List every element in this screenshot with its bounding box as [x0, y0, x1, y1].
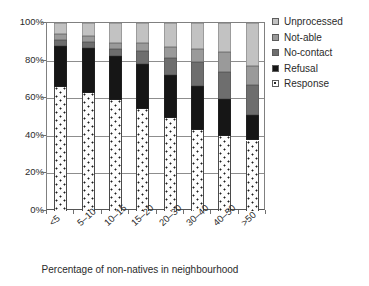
- segment-response: [218, 136, 231, 211]
- segment-response: [246, 141, 259, 212]
- segment-nocontact: [109, 49, 122, 56]
- segment-refusal: [136, 64, 149, 108]
- legend-item-response[interactable]: Response: [272, 76, 368, 92]
- bar-15_20: [136, 23, 149, 209]
- legend-swatch-response-icon: [272, 80, 279, 87]
- segment-notable: [54, 34, 67, 40]
- segment-unprocessed: [191, 23, 204, 49]
- segment-unprocessed: [82, 23, 95, 36]
- x-tick-label: <5: [47, 213, 62, 228]
- y-tick-label: 100%: [0, 16, 44, 28]
- segment-notable: [136, 43, 149, 51]
- segment-unprocessed: [54, 23, 67, 34]
- segment-refusal: [246, 115, 259, 140]
- segment-nocontact: [136, 51, 149, 64]
- x-tick-mark: [238, 210, 239, 214]
- legend-item-nocontact[interactable]: No-contact: [272, 45, 368, 61]
- chart-legend: UnprocessedNot-ableNo-contactRefusalResp…: [272, 14, 368, 92]
- legend-item-unprocessed[interactable]: Unprocessed: [272, 14, 368, 30]
- segment-refusal: [54, 46, 67, 87]
- bar-20_30: [164, 23, 177, 209]
- legend-item-refusal[interactable]: Refusal: [272, 61, 368, 77]
- legend-swatch-unprocessed-icon: [272, 18, 279, 25]
- x-tick-mark: [46, 210, 47, 214]
- segment-nocontact: [54, 40, 67, 46]
- gridline: [47, 173, 264, 174]
- segment-notable: [109, 43, 122, 50]
- segment-unprocessed: [109, 23, 122, 43]
- x-tick-mark: [101, 210, 102, 214]
- legend-swatch-refusal-icon: [272, 65, 279, 72]
- y-tick-label: 40%: [0, 129, 44, 141]
- segment-response: [54, 87, 67, 211]
- gridline: [47, 98, 264, 99]
- segment-notable: [218, 52, 231, 72]
- legend-swatch-notable-icon: [272, 34, 279, 41]
- x-tick-label: >50: [238, 209, 257, 228]
- segment-refusal: [109, 56, 122, 100]
- bar-40_50: [218, 23, 231, 209]
- segment-nocontact: [191, 62, 204, 86]
- bar-5_10: [82, 23, 95, 209]
- segment-nocontact: [246, 85, 259, 115]
- legend-label: Refusal: [284, 63, 318, 74]
- y-tick-label: 80%: [0, 54, 44, 66]
- legend-label: Unprocessed: [284, 16, 343, 27]
- segment-notable: [164, 47, 177, 57]
- y-tick-label: 0%: [0, 204, 44, 216]
- legend-item-notable[interactable]: Not-able: [272, 30, 368, 46]
- segment-nocontact: [218, 72, 231, 99]
- segment-response: [164, 118, 177, 211]
- segment-unprocessed: [164, 23, 177, 47]
- segment-notable: [246, 66, 259, 85]
- legend-swatch-nocontact-icon: [272, 49, 279, 56]
- segment-unprocessed: [136, 23, 149, 43]
- segment-response: [191, 130, 204, 211]
- x-tick-mark: [210, 210, 211, 214]
- segment-refusal: [164, 75, 177, 118]
- bar-_50: [246, 23, 259, 209]
- gridline: [47, 136, 264, 137]
- legend-label: Response: [284, 78, 329, 89]
- segment-notable: [191, 49, 204, 62]
- y-axis: 0%20%40%60%80%100%: [0, 22, 44, 210]
- segment-refusal: [82, 48, 95, 92]
- plot-area: [46, 22, 265, 210]
- segment-response: [109, 100, 122, 211]
- segment-nocontact: [82, 42, 95, 49]
- bar-30_40: [191, 23, 204, 209]
- segment-response: [82, 93, 95, 211]
- x-tick-mark: [265, 210, 266, 214]
- segment-response: [136, 109, 149, 211]
- segment-nocontact: [164, 58, 177, 75]
- y-tick-label: 20%: [0, 166, 44, 178]
- bar-_5: [54, 23, 67, 209]
- segment-unprocessed: [246, 23, 259, 66]
- bar-10_15: [109, 23, 122, 209]
- segment-unprocessed: [218, 23, 231, 52]
- segment-notable: [82, 36, 95, 42]
- segment-refusal: [191, 86, 204, 130]
- x-axis-title: Percentage of non-natives in neighbourho…: [0, 264, 280, 275]
- x-tick-mark: [73, 210, 74, 214]
- x-tick-mark: [156, 210, 157, 214]
- legend-label: Not-able: [284, 32, 322, 43]
- segment-refusal: [218, 99, 231, 136]
- stacked-bar-chart: 0%20%40%60%80%100% <55–1010–1515–2020–30…: [0, 0, 369, 286]
- y-tick-label: 60%: [0, 91, 44, 103]
- legend-label: No-contact: [284, 47, 332, 58]
- gridline: [47, 61, 264, 62]
